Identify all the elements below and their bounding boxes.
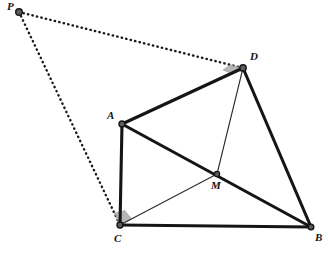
segment-MD xyxy=(217,68,243,174)
geometry-canvas xyxy=(0,0,328,257)
vertex-label-A: A xyxy=(107,110,114,121)
vertex-dots-group xyxy=(16,9,314,230)
vertex-dot-A xyxy=(119,121,125,127)
vertex-label-M: M xyxy=(211,180,221,191)
segment-PC xyxy=(19,12,120,225)
thin-lines-group xyxy=(120,68,243,225)
vertex-label-B: B xyxy=(315,232,322,243)
vertex-dot-M xyxy=(214,171,219,176)
geometry-figure: P A B C D M xyxy=(0,0,328,257)
thick-lines-group xyxy=(120,68,311,227)
vertex-dot-B xyxy=(308,224,314,230)
vertex-label-D: D xyxy=(250,51,258,62)
segment-PD xyxy=(19,12,243,68)
segment-AD xyxy=(122,68,243,124)
segment-DB xyxy=(243,68,311,227)
segment-CM xyxy=(120,174,217,225)
vertex-label-P: P xyxy=(7,1,14,12)
segment-AC xyxy=(120,124,122,225)
vertex-dot-D xyxy=(240,65,246,71)
vertex-label-C: C xyxy=(114,233,121,244)
vertex-dot-P xyxy=(16,9,23,16)
vertex-dot-C xyxy=(117,222,123,228)
segment-CB xyxy=(120,225,311,227)
